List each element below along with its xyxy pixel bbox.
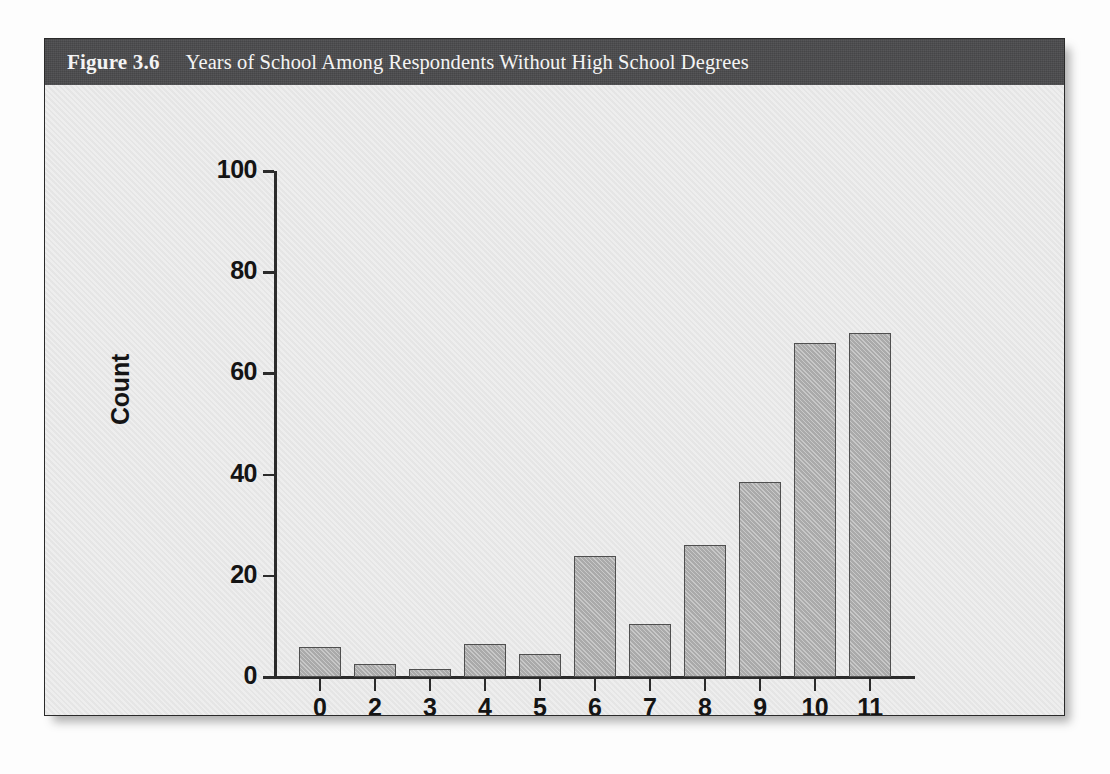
y-axis-tick-label: 60 bbox=[195, 357, 257, 386]
y-axis-tick-label: 80 bbox=[195, 256, 257, 285]
figure-number: Figure 3.6 bbox=[67, 50, 160, 75]
y-axis-title: Count bbox=[106, 310, 135, 470]
figure-caption-bar: Figure 3.6 Years of School Among Respond… bbox=[45, 39, 1064, 85]
x-axis-tick bbox=[814, 678, 817, 691]
x-axis-tick bbox=[319, 678, 322, 691]
x-axis-tick bbox=[594, 678, 597, 691]
bar bbox=[794, 343, 836, 677]
y-axis-tick bbox=[263, 474, 274, 477]
y-axis-tick-label: 40 bbox=[195, 459, 257, 488]
bar bbox=[684, 545, 726, 677]
figure-box: Figure 3.6 Years of School Among Respond… bbox=[44, 38, 1065, 716]
bar bbox=[299, 647, 341, 677]
y-axis-tick bbox=[263, 575, 274, 578]
y-axis-tick bbox=[263, 170, 274, 173]
x-axis-tick bbox=[429, 678, 432, 691]
page-bleed-top bbox=[120, 2, 1020, 24]
bar bbox=[519, 654, 561, 677]
y-axis-tick-label: 100 bbox=[195, 155, 257, 184]
y-axis-tick bbox=[263, 372, 274, 375]
x-axis-tick bbox=[869, 678, 872, 691]
y-axis-tick-label: 0 bbox=[195, 661, 257, 690]
y-axis-tick bbox=[263, 271, 274, 274]
y-axis-tick bbox=[263, 676, 274, 679]
x-axis-tick bbox=[649, 678, 652, 691]
bars-layer bbox=[274, 171, 915, 677]
x-axis-tick bbox=[704, 678, 707, 691]
x-axis-tick bbox=[539, 678, 542, 691]
bar bbox=[849, 333, 891, 677]
chart-plot-panel: Count 020406080100 0234567891011 Highest… bbox=[45, 85, 1064, 715]
bar bbox=[354, 664, 396, 677]
bar bbox=[409, 669, 451, 677]
bar bbox=[464, 644, 506, 677]
y-axis-tick-label: 20 bbox=[195, 560, 257, 589]
figure-title: Years of School Among Respondents Withou… bbox=[186, 51, 749, 74]
x-axis-tick-label: 11 bbox=[835, 693, 905, 715]
bar bbox=[739, 482, 781, 677]
bar bbox=[574, 556, 616, 677]
x-axis-tick bbox=[759, 678, 762, 691]
x-axis-tick bbox=[374, 678, 377, 691]
x-axis-tick bbox=[484, 678, 487, 691]
bar bbox=[629, 624, 671, 677]
